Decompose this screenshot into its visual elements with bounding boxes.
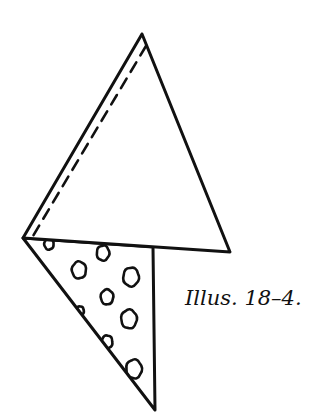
patterned-lower-flap xyxy=(23,238,155,410)
upper-flap xyxy=(23,34,230,252)
folded-paper-illustration xyxy=(0,0,325,417)
figure-caption: Illus. 18–4. xyxy=(185,286,302,310)
